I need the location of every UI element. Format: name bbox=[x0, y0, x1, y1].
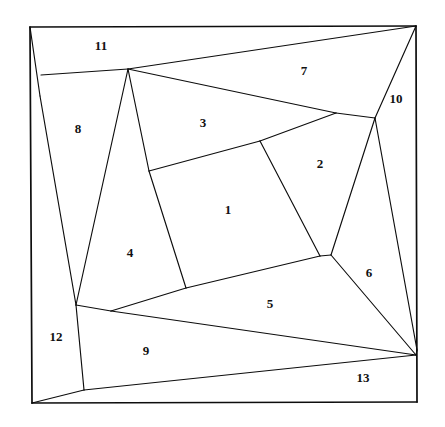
figure-container: 12345678910111213 bbox=[0, 0, 445, 427]
region-1-label: 1 bbox=[225, 202, 232, 217]
region-3-label: 3 bbox=[200, 115, 207, 130]
region-12-label: 12 bbox=[50, 329, 63, 344]
region-10-label: 10 bbox=[390, 91, 403, 106]
region-4-label: 4 bbox=[127, 245, 134, 260]
region-6-label: 6 bbox=[366, 265, 373, 280]
edge-outer-top bbox=[30, 26, 416, 27]
region-8-label: 8 bbox=[75, 121, 82, 136]
region-5-label: 5 bbox=[267, 296, 274, 311]
region-9-label: 9 bbox=[143, 343, 150, 358]
region-11-label: 11 bbox=[95, 38, 107, 53]
edge-outer-bottom bbox=[32, 402, 417, 403]
partition-diagram: 12345678910111213 bbox=[0, 0, 445, 427]
region-2-label: 2 bbox=[317, 156, 324, 171]
region-7-label: 7 bbox=[301, 63, 308, 78]
region-13-label: 13 bbox=[357, 370, 371, 385]
